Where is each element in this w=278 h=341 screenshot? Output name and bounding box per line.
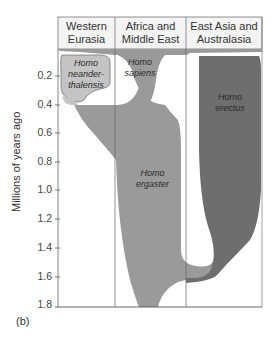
- top-strip: [58, 49, 262, 55]
- region-africa-middle-east: Africa andMiddle East: [115, 17, 186, 49]
- homo-erectus-shape: [186, 56, 261, 283]
- label-homo-sapiens: Homosapiens: [120, 57, 160, 79]
- y-tick-label: 1.4: [22, 241, 52, 253]
- y-axis-title: Millions of years ago: [10, 112, 22, 212]
- y-tick-label: 1.0: [22, 183, 52, 195]
- region-east-asia-australasia: East Asia andAustralasia: [186, 17, 262, 49]
- y-tick-label: 1.6: [22, 270, 52, 282]
- y-tick-label: 0.6: [22, 126, 52, 138]
- label-homo-erectus: Homoerectus: [205, 92, 255, 114]
- y-tick-label: 0.2: [22, 69, 52, 81]
- y-ticks: [55, 76, 60, 277]
- y-tick-label: 0.8: [22, 155, 52, 167]
- label-homo-ergaster: Homoergaster: [130, 168, 175, 190]
- label-homo-neanderthalensis: Homoneander-thalensis: [62, 58, 110, 91]
- y-tick-label: 1.2: [22, 212, 52, 224]
- panel-label: (b): [16, 315, 29, 327]
- y-tick-label: 1.8: [22, 298, 52, 310]
- y-tick-label: 0.4: [22, 98, 52, 110]
- region-western-eurasia: WesternEurasia: [58, 17, 115, 49]
